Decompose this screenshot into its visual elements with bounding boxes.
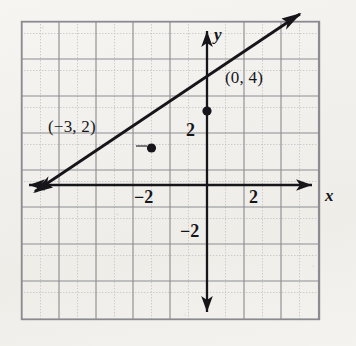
figure-canvas: y x −2 2 2 −2 (−3, 2) (0, 4) — [0, 0, 356, 346]
x-axis-label: x — [325, 187, 334, 204]
x-tick-label-neg2: −2 — [134, 188, 153, 206]
x-tick-label-pos2: 2 — [249, 188, 258, 206]
coordinate-plane — [0, 0, 356, 346]
point-label-neg3-2: (−3, 2) — [48, 118, 96, 135]
y-tick-label-neg2: −2 — [180, 222, 199, 240]
y-axis-label: y — [214, 26, 222, 43]
data-point-0-4 — [202, 106, 211, 115]
y-tick-label-pos2: 2 — [186, 121, 195, 139]
data-point-neg3-2 — [147, 143, 156, 152]
plotted-line — [33, 13, 302, 193]
point-label-0-4: (0, 4) — [225, 69, 263, 86]
